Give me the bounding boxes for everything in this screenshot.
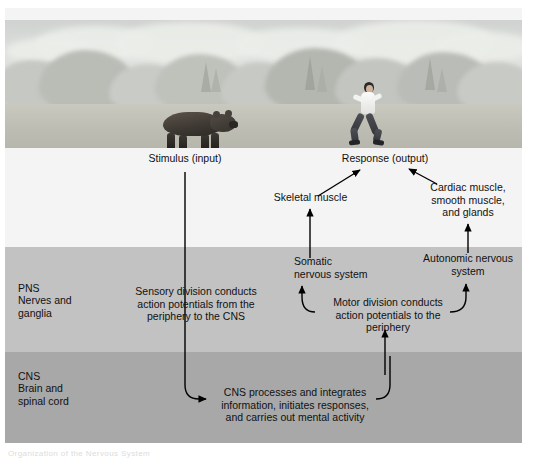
label-cardiac-group: Cardiac muscle, smooth muscle, and gland… (413, 181, 523, 219)
ground (5, 104, 522, 148)
figure-caption: Organization of the Nervous System (8, 449, 150, 458)
label-stimulus: Stimulus (input) (125, 152, 245, 165)
zone-label-pns: PNS (18, 282, 40, 295)
bear-figure (155, 106, 235, 148)
label-skeletal-muscle: Skeletal muscle (258, 191, 363, 204)
label-sensory-division: Sensory division conducts action potenti… (112, 285, 280, 323)
zone-label-cns: CNS (18, 370, 40, 383)
zone-panel (5, 8, 522, 443)
zone-sublabel-cns: Brain and spinal cord (18, 382, 69, 407)
forest-photo (5, 20, 522, 148)
label-motor-division: Motor division conducts action potential… (310, 296, 466, 334)
label-response: Response (output) (325, 152, 445, 165)
zone-sublabel-pns: Nerves and ganglia (18, 294, 72, 319)
figure-canvas: Stimulus (input) Response (output) Skele… (0, 0, 534, 465)
treeline (5, 48, 522, 107)
runner-figure (351, 82, 385, 148)
label-somatic-nervous-system: Somatic nervous system (294, 255, 384, 280)
label-cns-process: CNS processes and integrates information… (205, 386, 385, 424)
label-autonomic-nervous-system: Autonomic nervous system (413, 252, 523, 277)
